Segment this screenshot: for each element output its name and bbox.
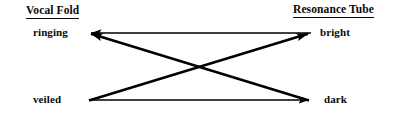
diagram-root: Vocal Fold Resonance Tube ringing veiled…	[0, 0, 408, 125]
state-label-veiled: veiled	[33, 93, 61, 106]
arrow-veiled-to-bright	[89, 34, 308, 101]
column-heading-vocal-fold: Vocal Fold	[26, 4, 79, 19]
state-label-dark: dark	[324, 93, 347, 106]
arrow-dark-to-ringing	[91, 34, 309, 101]
state-label-ringing: ringing	[33, 26, 68, 39]
column-heading-resonance-tube: Resonance Tube	[293, 3, 374, 18]
state-label-bright: bright	[320, 26, 350, 39]
